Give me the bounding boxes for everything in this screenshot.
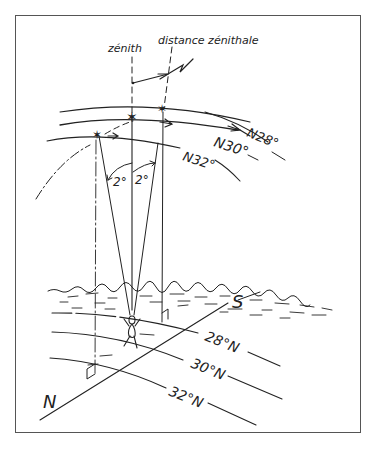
label-ground-30: 30°N: [189, 355, 228, 383]
ray-left: [99, 136, 130, 315]
parallel-30: [52, 332, 183, 360]
sea-dashes: [60, 293, 332, 318]
parallel-32-tail: [208, 403, 256, 425]
vertical-right: [162, 112, 163, 322]
zenith-point: [132, 82, 135, 85]
label-ground-28: 28°N: [203, 328, 242, 356]
label-zenith-distance: distance zénithale: [158, 34, 259, 47]
horizon-arc-left: [36, 145, 90, 199]
label-north: N: [43, 391, 56, 412]
label-sky-n28: N28°: [245, 125, 281, 151]
star-right: ✶: [157, 102, 167, 116]
zenith-distance-arrow: [133, 59, 193, 83]
right-angle-left: [87, 364, 95, 379]
label-ground-32: 32°N: [167, 383, 206, 411]
angle-arc-right: [133, 161, 155, 172]
parallel-28-tail: [248, 352, 280, 366]
parallel-30-tail: [228, 376, 282, 399]
right-angle-right: [162, 309, 168, 319]
angle-label-left: 2°: [113, 175, 127, 189]
vertical-left: [95, 140, 96, 373]
zenith-distance-diagram: ✶ ✶ ✶ 2° 2° zénith distance zénithale N2…: [0, 0, 374, 453]
parallel-28: [52, 313, 198, 333]
star-path-n30: [60, 120, 238, 130]
label-sky-n32: N32°: [181, 149, 217, 173]
star-path-n28: [60, 107, 250, 122]
angle-label-right: 2°: [135, 173, 149, 187]
zenith-distance-line: [164, 47, 172, 108]
label-south: S: [232, 291, 243, 312]
star-path-n32-tail: [215, 160, 240, 181]
star-left: ✶: [92, 128, 102, 142]
parallel-32: [50, 358, 166, 388]
label-zenith: zénith: [107, 42, 142, 55]
tail-n30: [248, 155, 258, 160]
tail-n28: [272, 152, 285, 160]
meridian-ticks: [88, 334, 154, 365]
